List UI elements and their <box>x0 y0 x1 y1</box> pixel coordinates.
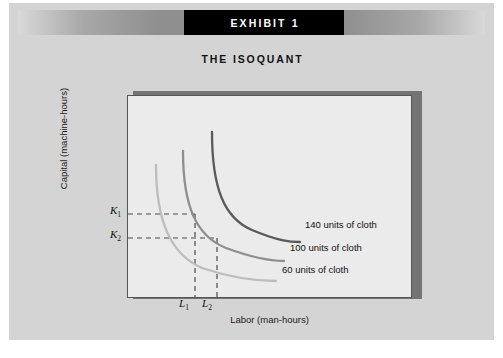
x-tick-label-l2: L2 <box>202 297 212 312</box>
curve-label-100: 100 units of cloth <box>290 242 362 253</box>
isoquant-curve-100 <box>183 151 284 261</box>
isoquant-curve-140 <box>212 132 300 242</box>
curve-label-60: 60 units of cloth <box>282 264 349 275</box>
x-tick-label-l1: L1 <box>179 297 189 312</box>
curve-label-140: 140 units of cloth <box>305 219 377 230</box>
y-axis-title: Capital (machine-hours) <box>58 59 69 219</box>
l1-subscript: 1 <box>185 303 189 312</box>
k2-subscript: 2 <box>117 234 121 243</box>
plot-svg <box>128 96 413 299</box>
y-tick-label-k2: K2 <box>110 228 121 243</box>
y-tick-label-k1: K1 <box>110 204 121 219</box>
exhibit-card: EXHIBIT 1 THE ISOQUANT Capital (machine-… <box>9 3 494 340</box>
k1-subscript: 1 <box>117 210 121 219</box>
plot-area <box>127 95 412 298</box>
isoquant-chart: Capital (machine-hours) Labor (man-hours… <box>9 3 494 340</box>
x-axis-title: Labor (man-hours) <box>127 314 412 325</box>
l2-subscript: 2 <box>208 303 212 312</box>
